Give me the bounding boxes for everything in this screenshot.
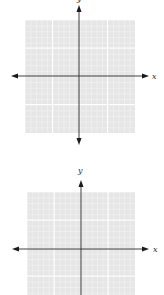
coordinate-plane-1: x y (0, 0, 164, 150)
coordinate-plane-2-svg: x y (0, 150, 164, 295)
arrow-left-icon (12, 247, 19, 252)
arrow-up-icon (77, 5, 82, 12)
x-axis-label: x (152, 72, 157, 81)
grid-1 (25, 20, 135, 133)
arrow-down-icon (77, 138, 82, 145)
coordinate-plane-1-svg: x y (0, 0, 164, 150)
arrow-right-icon (142, 247, 149, 252)
arrow-right-icon (142, 74, 149, 79)
x-axis-label: x (153, 245, 158, 254)
arrow-up-icon (79, 180, 84, 187)
y-axis-label: y (76, 0, 82, 3)
arrow-left-icon (11, 74, 18, 79)
y-axis-label: y (77, 166, 83, 175)
coordinate-plane-2: x y (0, 150, 164, 295)
